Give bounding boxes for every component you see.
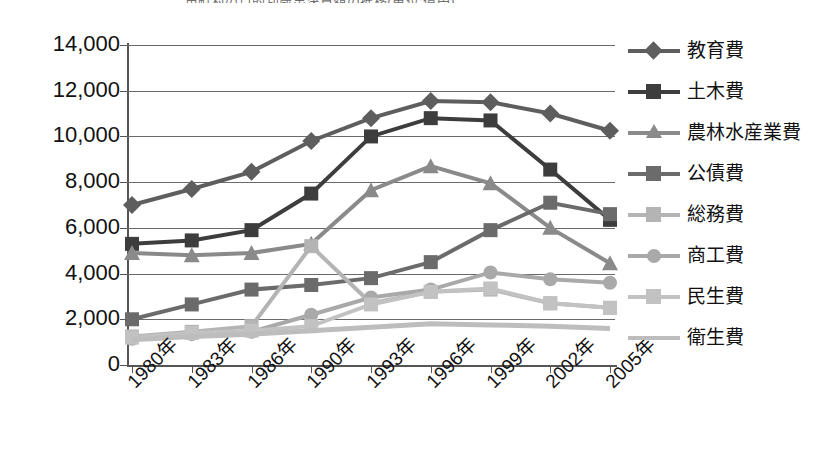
legend-label: 農林水産業費 — [687, 123, 801, 143]
data-point-marker — [484, 281, 498, 295]
legend-label: 教育費 — [687, 41, 744, 61]
data-point-marker — [185, 233, 199, 247]
data-point-marker — [543, 272, 557, 286]
legend-item-商工費[interactable]: 商工費 — [628, 243, 744, 269]
data-point-marker — [423, 158, 439, 173]
data-point-marker — [603, 276, 617, 290]
legend-item-公債費[interactable]: 公債費 — [628, 161, 744, 187]
data-point-marker — [304, 187, 318, 201]
data-point-marker — [364, 129, 378, 143]
y-axis-tick-label: 10,000 — [8, 124, 120, 146]
data-point-marker — [482, 93, 500, 111]
y-axis-tick-label: 8,000 — [8, 170, 120, 192]
y-axis-tick — [120, 228, 127, 229]
x-axis-labels: 1980年1983年1986年1990年1993年1996年1999年2002年… — [0, 374, 660, 454]
data-point-marker — [601, 122, 619, 140]
legend-square-icon — [646, 289, 661, 304]
data-point-marker — [245, 283, 259, 297]
y-axis-tick — [120, 182, 127, 183]
data-point-marker — [603, 301, 617, 315]
y-axis-tick-label: 12,000 — [8, 79, 120, 101]
legend-square-icon — [646, 84, 661, 99]
data-point-marker — [364, 271, 378, 285]
legend-label: 商工費 — [687, 246, 744, 266]
data-point-marker — [183, 180, 201, 198]
plot-area — [127, 45, 615, 365]
legend-triangle-icon — [646, 124, 662, 138]
series-line — [132, 166, 610, 263]
data-point-marker — [302, 132, 320, 150]
legend-item-農林水産業費[interactable]: 農林水産業費 — [628, 120, 801, 146]
data-point-marker — [484, 223, 498, 237]
chart-legend: 教育費土木費農林水産業費公債費総務費商工費民生費衛生費 — [628, 38, 834, 368]
data-point-marker — [185, 297, 199, 311]
data-point-marker — [125, 312, 139, 326]
legend-item-衛生費[interactable]: 衛生費 — [628, 325, 744, 351]
data-point-marker — [543, 196, 557, 210]
y-axis-tick — [120, 136, 127, 137]
legend-swatch — [628, 49, 680, 53]
data-point-marker — [541, 105, 559, 123]
legend-swatch — [628, 131, 680, 135]
series-土木費 — [125, 111, 617, 251]
y-axis-tick-label: 2,000 — [8, 307, 120, 329]
legend-item-総務費[interactable]: 総務費 — [628, 202, 744, 228]
data-point-marker — [424, 111, 438, 125]
legend-swatch — [628, 336, 680, 340]
chart-title: 市町村の目的別歳出決算額の推移(単位:億円) — [0, 0, 640, 3]
legend-swatch — [628, 90, 680, 94]
legend-swatch — [628, 295, 680, 299]
legend-label: 土木費 — [687, 82, 744, 102]
legend-diamond-icon — [644, 41, 662, 59]
legend-square-icon — [646, 166, 661, 181]
legend-item-教育費[interactable]: 教育費 — [628, 38, 744, 64]
y-axis-tick — [120, 274, 127, 275]
series-layer — [127, 45, 615, 365]
legend-swatch — [628, 254, 680, 258]
legend-swatch — [628, 213, 680, 217]
y-axis-labels: 14,00012,00010,0008,0006,0004,0002,0000 — [0, 45, 120, 365]
y-axis-tick-label: 0 — [8, 353, 120, 375]
y-axis-tick-label: 4,000 — [8, 262, 120, 284]
data-point-marker — [245, 223, 259, 237]
data-point-marker — [543, 296, 557, 310]
y-axis-tick-label: 14,000 — [8, 33, 120, 55]
data-point-marker — [304, 278, 318, 292]
data-point-marker — [422, 92, 440, 110]
y-axis-tick-label: 6,000 — [8, 216, 120, 238]
legend-circle-icon — [647, 249, 661, 263]
legend-label: 衛生費 — [687, 328, 744, 348]
data-point-marker — [424, 285, 438, 299]
chart-page: 市町村の目的別歳出決算額の推移(単位:億円) 14,00012,00010,00… — [0, 0, 834, 472]
data-point-marker — [543, 163, 557, 177]
legend-label: 公債費 — [687, 164, 744, 184]
data-point-marker — [602, 255, 618, 270]
legend-item-民生費[interactable]: 民生費 — [628, 284, 744, 310]
legend-label: 民生費 — [687, 287, 744, 307]
legend-label: 総務費 — [687, 205, 744, 225]
data-point-marker — [603, 207, 617, 221]
data-point-marker — [484, 113, 498, 127]
data-point-marker — [243, 163, 261, 181]
legend-line-segment — [628, 336, 680, 340]
data-point-marker — [123, 196, 141, 214]
legend-item-土木費[interactable]: 土木費 — [628, 79, 744, 105]
legend-square-icon — [646, 207, 661, 222]
y-axis-tick — [120, 91, 127, 92]
data-point-marker — [362, 109, 380, 127]
legend-swatch — [628, 172, 680, 176]
y-axis-tick — [120, 45, 127, 46]
data-point-marker — [304, 239, 318, 253]
data-point-marker — [364, 297, 378, 311]
y-axis-tick — [120, 365, 127, 366]
data-point-marker — [484, 265, 498, 279]
data-point-marker — [424, 255, 438, 269]
